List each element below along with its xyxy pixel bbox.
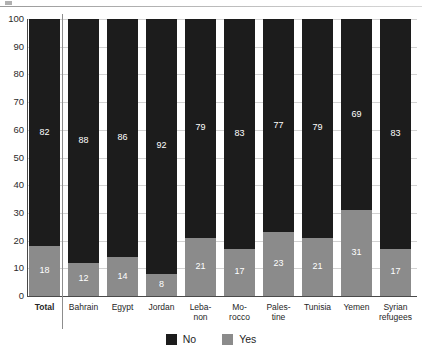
x-label-line1: Syrian	[373, 302, 418, 312]
bar-value-yes-bahrain: 12	[68, 274, 99, 283]
bar-value-yes-total: 18	[29, 266, 60, 275]
bar-segment-no-morocco: 83	[224, 19, 255, 249]
bar-value-no-lebanon: 79	[185, 123, 216, 132]
y-axis-tick-labels: 1009080706050403020100	[0, 0, 24, 352]
x-label-syrian-refugees: Syrianrefugees	[373, 302, 418, 322]
bar-value-yes-yemen: 31	[341, 248, 372, 257]
bar-segment-yes-yemen: 31	[341, 210, 372, 296]
legend-label: No	[183, 334, 196, 345]
bar-segment-no-yemen: 69	[341, 19, 372, 210]
bar-segment-no-lebanon: 79	[185, 19, 216, 238]
y-tick-label-80: 80	[0, 69, 24, 79]
bar-group-syrian-refugees: 8317	[380, 19, 411, 296]
bar-group-total: 8218	[29, 19, 60, 296]
bar-segment-no-egypt: 86	[107, 19, 138, 257]
legend-item-no[interactable]: No	[166, 334, 196, 345]
bar-value-yes-jordan: 8	[146, 280, 177, 289]
y-tick-label-20: 20	[0, 236, 24, 246]
x-axis-line	[27, 296, 417, 297]
bar-value-no-egypt: 86	[107, 133, 138, 142]
y-tick-label-10: 10	[0, 263, 24, 273]
bar-segment-yes-syrian-refugees: 17	[380, 249, 411, 296]
bar-value-yes-lebanon: 21	[185, 262, 216, 271]
y-axis-line	[27, 19, 28, 297]
x-label-line2: tine	[256, 312, 301, 322]
bar-group-yemen: 6931	[341, 19, 372, 296]
bar-segment-yes-total: 18	[29, 246, 60, 296]
y-tick-label-70: 70	[0, 97, 24, 107]
bar-segment-no-total: 82	[29, 19, 60, 246]
bar-value-no-bahrain: 88	[68, 136, 99, 145]
x-axis-category-labels: TotalBahrainEgyptJordanLeba-nonMo-roccoP…	[27, 302, 417, 332]
bar-segment-yes-palestine: 23	[263, 232, 294, 296]
y-tick-label-0: 0	[0, 291, 24, 301]
y-tick-label-100: 100	[0, 14, 24, 24]
legend-swatch-no-icon	[166, 334, 177, 345]
bar-value-yes-tunisia: 21	[302, 262, 333, 271]
bar-segment-no-syrian-refugees: 83	[380, 19, 411, 249]
bar-value-no-syrian-refugees: 83	[380, 129, 411, 138]
bar-segment-yes-bahrain: 12	[68, 263, 99, 296]
legend-item-yes[interactable]: Yes	[222, 334, 256, 345]
bar-segment-yes-jordan: 8	[146, 274, 177, 296]
legend-swatch-yes-icon	[222, 334, 233, 345]
y-tick-label-60: 60	[0, 125, 24, 135]
bar-group-bahrain: 8812	[68, 19, 99, 296]
x-label-line2: refugees	[373, 312, 418, 322]
bar-value-no-yemen: 69	[341, 110, 372, 119]
bar-value-yes-syrian-refugees: 17	[380, 267, 411, 276]
bar-value-yes-palestine: 23	[263, 259, 294, 268]
y-tick-label-40: 40	[0, 180, 24, 190]
bar-group-morocco: 8317	[224, 19, 255, 296]
y-tick-label-50: 50	[0, 153, 24, 163]
bar-value-no-palestine: 77	[263, 121, 294, 130]
scan-edge-line	[0, 6, 422, 7]
bar-value-no-tunisia: 79	[302, 123, 333, 132]
bar-segment-yes-tunisia: 21	[302, 238, 333, 296]
bar-segment-no-jordan: 92	[146, 19, 177, 274]
bar-group-palestine: 7723	[263, 19, 294, 296]
chart-legend: NoYes	[0, 334, 422, 345]
bar-segment-yes-lebanon: 21	[185, 238, 216, 296]
bar-value-no-jordan: 92	[146, 141, 177, 150]
bar-group-egypt: 8614	[107, 19, 138, 296]
bar-group-lebanon: 7921	[185, 19, 216, 296]
bar-value-yes-morocco: 17	[224, 267, 255, 276]
bar-group-tunisia: 7921	[302, 19, 333, 296]
y-tick-label-30: 30	[0, 208, 24, 218]
bar-value-no-total: 82	[29, 128, 60, 137]
bar-segment-yes-morocco: 17	[224, 249, 255, 296]
bar-group-jordan: 928	[146, 19, 177, 296]
y-tick-label-90: 90	[0, 42, 24, 52]
bar-segment-no-tunisia: 79	[302, 19, 333, 238]
legend-label: Yes	[239, 334, 256, 345]
bar-value-yes-egypt: 14	[107, 272, 138, 281]
bar-segment-yes-egypt: 14	[107, 257, 138, 296]
bar-value-no-morocco: 83	[224, 129, 255, 138]
chart-page: 1009080706050403020100 82188812861492879…	[0, 0, 422, 352]
plot-area: 821888128614928792183177723792169318317	[27, 19, 417, 296]
bar-segment-no-palestine: 77	[263, 19, 294, 232]
total-column-divider	[62, 14, 63, 329]
bar-segment-no-bahrain: 88	[68, 19, 99, 263]
